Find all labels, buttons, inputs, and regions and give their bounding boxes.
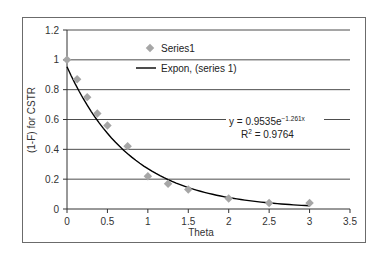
trend-equation: y = 0.9535e−1.261x R2 = 0.9764 [226, 114, 324, 144]
chart: 00.20.40.60.811.2 00.511.522.533.5 Theta… [0, 0, 381, 253]
y-tick-label: 0.8 [45, 84, 59, 95]
x-tick-label: 0.5 [100, 216, 114, 227]
y-tick-label: 1 [53, 54, 59, 65]
x-tick-label: 0 [64, 216, 70, 227]
y-axis-title: (1-F) for CSTR [26, 87, 37, 153]
x-tick-label: 1.5 [181, 216, 195, 227]
x-tick-label: 2.5 [262, 216, 276, 227]
x-tick-label: 3 [307, 216, 313, 227]
x-axis-title: Theta [188, 227, 214, 238]
legend-series1-label: Series1 [161, 43, 195, 54]
y-tick-label: 1.2 [45, 25, 59, 36]
legend-trend-label: Expon, (series 1) [161, 63, 237, 74]
y-tick-label: 0.2 [45, 174, 59, 185]
y-tick-label: 0.4 [45, 144, 59, 155]
x-tick-label: 1 [145, 216, 151, 227]
y-tick-label: 0 [53, 204, 59, 215]
y-tick-label: 0.6 [45, 114, 59, 125]
x-tick-label: 2 [226, 216, 232, 227]
x-tick-label: 3.5 [343, 216, 357, 227]
